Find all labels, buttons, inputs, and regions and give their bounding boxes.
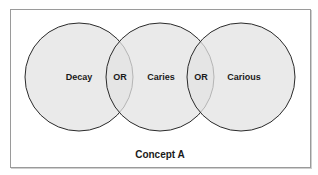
circle-label-carious: Carious: [227, 72, 261, 82]
operator-or-1: OR: [113, 72, 127, 82]
circle-label-decay: Decay: [66, 72, 93, 82]
circle-label-caries: Caries: [147, 72, 175, 82]
operator-or-2: OR: [194, 72, 208, 82]
diagram-caption: Concept A: [135, 149, 185, 160]
venn-diagram: Decay Caries Carious OR OR Concept A: [0, 0, 318, 175]
